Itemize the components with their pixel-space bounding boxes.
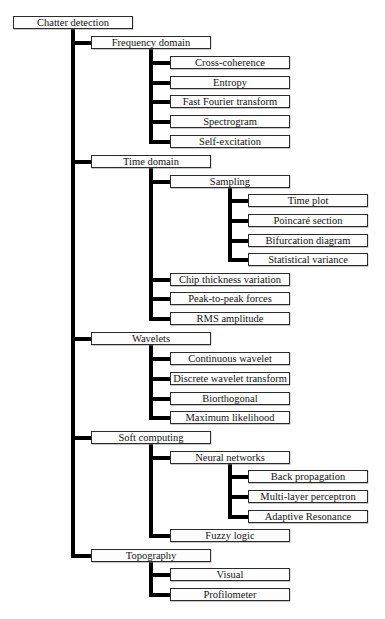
connector-branch [149,397,170,401]
node-maximum-likelihood: Maximum likelihood [170,411,290,424]
connector-branch [149,317,170,321]
connector-branch [149,357,170,361]
node-adaptive-resonance: Adaptive Resonance [248,510,368,523]
node-fuzzy-logic: Fuzzy logic [170,529,290,542]
node-rms-amplitude: RMS amplitude [170,312,290,325]
node-multi-layer-perceptron: Multi-layer perceptron [248,490,368,503]
node-cross-coherence: Cross-coherence [170,56,290,69]
connector-branch [149,593,170,597]
node-sampling: Sampling [170,175,290,188]
node-back-propagation: Back propagation [248,470,368,483]
connector-branch [149,180,170,184]
connector-branch [71,436,91,440]
node-profilometer: Profilometer [170,588,290,601]
node-peak-to-peak-forces: Peak-to-peak forces [170,292,290,305]
connector-branch [149,81,170,85]
node-poincare-section: Poincaré section [248,214,368,227]
connector-trunk [149,562,153,597]
connector-branch [228,239,248,243]
node-bifurcation-diagram: Bifurcation diagram [248,234,368,247]
node-chatter-detection: Chatter detection [13,16,133,29]
node-time-domain: Time domain [91,155,211,168]
node-continuous-wavelet: Continuous wavelet [170,352,290,365]
node-topography: Topography [91,549,211,562]
connector-branch [228,219,248,223]
connector-branch [149,140,170,144]
connector-trunk [71,29,75,558]
node-soft-computing: Soft computing [91,431,211,444]
connector-branch [228,199,248,203]
node-visual: Visual [170,568,290,581]
connector-branch [228,258,248,262]
connector-branch [149,100,170,104]
node-biorthogonal: Biorthogonal [170,392,290,405]
connector-branch [149,573,170,577]
connector-branch [228,515,248,519]
connector-branch [149,534,170,538]
connector-branch [228,495,248,499]
connector-trunk [228,464,232,519]
connector-branch [149,456,170,460]
node-frequency-domain: Frequency domain [91,36,211,49]
node-time-plot: Time plot [248,194,368,207]
node-wavelets: Wavelets [91,332,211,345]
connector-branch [149,278,170,282]
chatter-detection-taxonomy-diagram: Chatter detection Frequency domain Time … [0,0,385,619]
connector-branch [149,416,170,420]
node-spectrogram: Spectrogram [170,115,290,128]
connector-branch [71,41,91,45]
connector-branch [71,160,91,164]
connector-branch [149,297,170,301]
connector-branch [149,120,170,124]
node-self-excitation: Self-excitation [170,135,290,148]
node-statistical-variance: Statistical variance [248,253,368,266]
node-neural-networks: Neural networks [170,451,290,464]
node-discrete-wavelet-transform: Discrete wavelet transform [170,372,290,385]
connector-branch [71,337,91,341]
node-fast-fourier-transform: Fast Fourier transform [170,95,290,108]
connector-branch [149,377,170,381]
connector-branch [71,554,91,558]
connector-branch [228,475,248,479]
node-chip-thickness-variation: Chip thickness variation [170,273,290,286]
connector-branch [149,61,170,65]
node-entropy: Entropy [170,76,290,89]
